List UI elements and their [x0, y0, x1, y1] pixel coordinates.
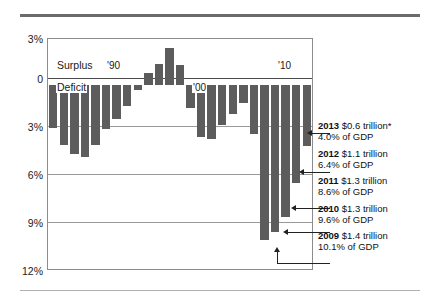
bar-1995: [112, 85, 120, 119]
annotation-2009-gdp: 10.1% of GDP: [318, 241, 439, 252]
bar-2001: [176, 65, 184, 85]
bar-1994: [102, 85, 110, 129]
bar-1992: [81, 85, 89, 157]
x-label-1990: '90: [106, 61, 121, 71]
arrow-2011: [291, 205, 296, 211]
leader-2009-v: [277, 252, 278, 264]
bar-2010: [271, 85, 279, 232]
asterisk-marker: *: [388, 120, 392, 131]
bar-1990: [60, 85, 68, 145]
annotation-2010-year: 2010: [318, 203, 339, 214]
x-label-2000: '00: [192, 83, 207, 93]
bar-1991: [70, 85, 78, 154]
bar-2013: [303, 85, 311, 146]
bar-2000: [165, 48, 173, 85]
bar-1996: [123, 85, 131, 106]
bar-2006: [229, 85, 237, 114]
annotation-2012-year: 2012: [318, 148, 339, 159]
annotation-2012-amount: $1.1 trillion: [342, 148, 388, 159]
annotation-2009-amount: $1.4 trillion: [342, 230, 388, 241]
annotation-2011: 2011 $1.3 trillion 8.6% of GDP: [318, 175, 439, 197]
y-tick-2: 3%: [3, 122, 43, 133]
arrow-2012: [299, 169, 304, 175]
annotation-2009-year: 2009: [318, 230, 339, 241]
y-tick-0: 3%: [3, 34, 43, 45]
annotation-2013: 2013 $0.6 trillion* 4.0% of GDP: [318, 120, 439, 142]
annotation-2010: 2010 $1.3 trillion 9.6% of GDP: [318, 203, 439, 225]
annotation-2012-gdp: 6.4% of GDP: [318, 159, 439, 170]
y-tick-3: 6%: [3, 170, 43, 181]
deficit-label: Deficit: [56, 82, 87, 93]
bottom-rule: [20, 290, 420, 291]
y-tick-1: 0: [3, 74, 43, 85]
annotation-2011-year: 2011: [318, 175, 339, 186]
bar-2008: [250, 85, 258, 134]
arrow-2013: [307, 130, 312, 136]
annotation-2013-amount: $0.6 trillion: [342, 120, 388, 131]
top-rule: [20, 14, 420, 17]
bar-1993: [91, 85, 99, 145]
bar-1997: [134, 85, 142, 90]
y-axis-labels: 3% 0 3% 6% 9% 12%: [0, 38, 43, 270]
bar-2005: [218, 85, 226, 125]
x-label-2010: '10: [277, 61, 292, 71]
bar-2004: [207, 85, 215, 139]
arrow-2009: [274, 247, 280, 252]
y-tick-5: 12%: [3, 266, 43, 277]
annotation-list: 2013 $0.6 trillion* 4.0% of GDP 2012 $1.…: [318, 120, 439, 258]
arrow-2010: [283, 229, 288, 235]
surplus-label: Surplus: [56, 60, 94, 71]
annotation-2009: 2009 $1.4 trillion 10.1% of GDP: [318, 230, 439, 252]
annotation-2013-year: 2013: [318, 120, 339, 131]
bar-series: [48, 39, 312, 269]
chart-figure: 3% 0 3% 6% 9% 12% Surplus Deficit '90 '0…: [0, 0, 439, 301]
bar-1999: [155, 64, 163, 85]
leader-2009: [277, 263, 330, 264]
bar-2007: [239, 85, 247, 103]
annotation-2011-gdp: 8.6% of GDP: [318, 186, 439, 197]
bar-2011: [281, 85, 289, 217]
annotation-2011-amount: $1.3 trillion: [341, 175, 387, 186]
annotation-2010-amount: $1.3 trillion: [342, 203, 388, 214]
annotation-2012: 2012 $1.1 trillion 6.4% of GDP: [318, 148, 439, 170]
annotation-2010-gdp: 9.6% of GDP: [318, 214, 439, 225]
bar-2009: [260, 85, 268, 240]
annotation-2013-gdp: 4.0% of GDP: [318, 131, 439, 142]
y-tick-4: 9%: [3, 218, 43, 229]
bar-1998: [144, 73, 152, 85]
